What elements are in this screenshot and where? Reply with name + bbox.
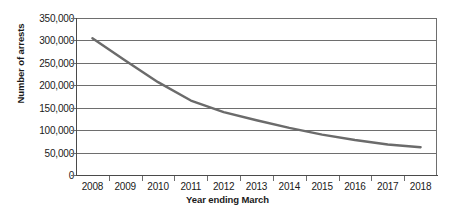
x-tick-mark — [174, 176, 175, 181]
x-tick-label: 2017 — [377, 181, 398, 192]
series-line-number-of-arrests — [76, 18, 438, 176]
x-tick-label: 2011 — [181, 181, 202, 192]
chart-container: Number of arrests 350,000 300,000 250,00… — [0, 0, 455, 221]
y-tick-label: 300,000 — [6, 35, 74, 46]
x-tick-mark — [207, 176, 208, 181]
x-tick-label: 2014 — [279, 181, 300, 192]
x-tick-mark — [142, 176, 143, 181]
x-tick-mark — [339, 176, 340, 181]
x-tick-label: 2018 — [410, 181, 431, 192]
x-tick-label: 2010 — [147, 181, 168, 192]
x-tick-mark — [404, 176, 405, 181]
y-tick-label: 350,000 — [6, 13, 74, 24]
y-tick-label: 0 — [6, 170, 74, 181]
y-tick-label: 150,000 — [6, 102, 74, 113]
x-axis-title: Year ending March — [0, 194, 455, 205]
x-tick-label: 2012 — [213, 181, 234, 192]
y-tick-label: 100,000 — [6, 125, 74, 136]
y-tick-label: 200,000 — [6, 80, 74, 91]
x-tick-label: 2016 — [344, 181, 365, 192]
x-tick-mark — [371, 176, 372, 181]
x-tick-label: 2013 — [246, 181, 267, 192]
x-tick-mark — [273, 176, 274, 181]
x-tick-label: 2008 — [82, 181, 103, 192]
y-axis-tick-labels: 350,000 300,000 250,000 200,000 150,000 … — [4, 0, 74, 221]
x-tick-label: 2015 — [311, 181, 332, 192]
y-tick-label: 50,000 — [6, 147, 74, 158]
x-tick-mark — [109, 176, 110, 181]
x-tick-mark — [240, 176, 241, 181]
y-tick-label: 250,000 — [6, 57, 74, 68]
x-tick-mark — [306, 176, 307, 181]
x-tick-label: 2009 — [114, 181, 135, 192]
